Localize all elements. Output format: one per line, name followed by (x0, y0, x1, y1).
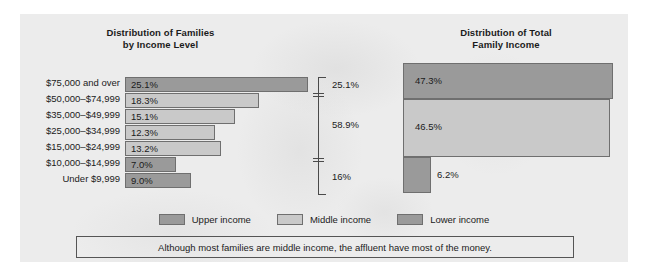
bar-10000-14999: 7.0% (125, 157, 176, 172)
category-label: Under $9,999 (62, 173, 120, 185)
bracket-cap-top (318, 77, 326, 78)
legend-swatch-lower-income (397, 214, 423, 225)
legend-item-upper-income: Upper income (159, 214, 251, 225)
left-chart-title-line1: Distribution of Families (48, 27, 273, 39)
stacked-bar-lower-income (403, 157, 431, 193)
left-chart-title-line2: by Income Level (48, 39, 273, 51)
bracket-label-upper: 25.1% (332, 79, 359, 90)
stacked-bar-middle-income-label: 46.5% (415, 121, 442, 132)
bracket-spine (318, 77, 319, 194)
right-chart-title-line1: Distribution of Total (416, 27, 596, 39)
category-label: $50,000–$74,999 (46, 93, 120, 105)
left-chart-category-labels: $75,000 and over $50,000–$74,999 $35,000… (20, 77, 120, 197)
bracket-label-lower: 16% (332, 171, 351, 182)
right-chart-title: Distribution of Total Family Income (416, 27, 596, 50)
bar-35000-49999: 15.1% (125, 109, 235, 124)
figure-panel: Distribution of Families by Income Level… (20, 14, 628, 262)
legend-label-upper-income: Upper income (192, 214, 251, 225)
bracket-tick-upper-middle-b (313, 96, 324, 97)
right-chart-title-line2: Family Income (416, 39, 596, 51)
bar-25000-34999: 12.3% (125, 125, 215, 140)
legend-item-middle-income: Middle income (277, 214, 371, 225)
bar-15000-24999: 13.2% (125, 141, 221, 156)
caption-box: Although most families are middle income… (76, 236, 574, 258)
category-label: $75,000 and over (46, 77, 120, 89)
category-label: $10,000–$14,999 (46, 157, 120, 169)
bracket-tick-middle-lower-a (313, 158, 324, 159)
bar-75000-and-over: 25.1% (125, 77, 308, 92)
stacked-bar-upper-income-label: 47.3% (415, 75, 442, 86)
bar-50000-74999: 18.3% (125, 93, 259, 108)
category-label: $15,000–$24,999 (46, 141, 120, 153)
legend-label-middle-income: Middle income (310, 214, 371, 225)
chart-legend: Upper income Middle income Lower income (20, 214, 628, 225)
bracket-tick-middle-lower-b (313, 161, 324, 162)
bracket-cap-bottom (318, 194, 326, 195)
left-chart-title: Distribution of Families by Income Level (48, 27, 273, 50)
legend-label-lower-income: Lower income (430, 214, 489, 225)
legend-item-lower-income: Lower income (397, 214, 489, 225)
caption-text: Although most families are middle income… (158, 242, 492, 253)
bracket-tick-upper-middle-a (313, 93, 324, 94)
legend-swatch-upper-income (159, 214, 185, 225)
category-label: $35,000–$49,999 (46, 109, 120, 121)
bracket-label-middle: 58.9% (332, 119, 359, 130)
stacked-bar-lower-income-label: 6.2% (437, 169, 459, 180)
category-label: $25,000–$34,999 (46, 125, 120, 137)
legend-swatch-middle-income (277, 214, 303, 225)
bar-under-9999: 9.0% (125, 173, 191, 188)
